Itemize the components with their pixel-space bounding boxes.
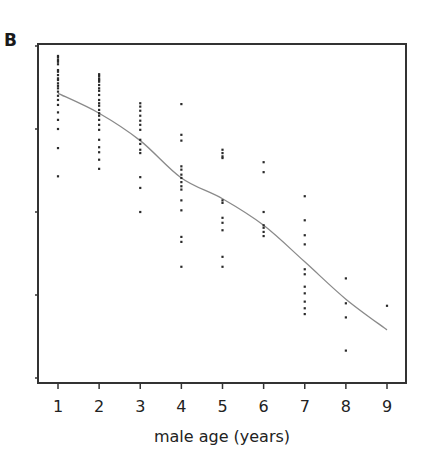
- data-point: [57, 147, 59, 149]
- data-point: [98, 159, 100, 161]
- x-tick-label: 6: [259, 397, 269, 416]
- data-point: [57, 128, 59, 130]
- data-point: [304, 286, 306, 288]
- data-point: [180, 165, 182, 167]
- x-tick-label: 4: [176, 397, 186, 416]
- data-point: [98, 99, 100, 101]
- data-point: [98, 119, 100, 121]
- data-point: [304, 268, 306, 270]
- data-point: [139, 139, 141, 141]
- scatter-chart: 123456789 male age (years): [0, 0, 436, 468]
- data-point: [221, 256, 223, 258]
- data-point: [304, 219, 306, 221]
- data-point: [304, 307, 306, 309]
- smoothed-trend-line: [58, 93, 387, 330]
- data-point: [304, 313, 306, 315]
- data-point: [98, 115, 100, 117]
- data-point: [139, 143, 141, 145]
- data-point: [57, 61, 59, 63]
- data-point: [98, 102, 100, 104]
- data-point: [221, 202, 223, 204]
- data-point: [180, 169, 182, 171]
- data-point: [98, 151, 100, 153]
- data-point: [57, 71, 59, 73]
- data-point: [57, 95, 59, 97]
- data-point: [139, 129, 141, 131]
- x-tick-label: 5: [217, 397, 227, 416]
- data-point: [180, 209, 182, 211]
- data-point: [304, 292, 306, 294]
- data-point: [98, 81, 100, 83]
- data-point: [139, 124, 141, 126]
- data-point: [263, 171, 265, 173]
- data-point: [180, 181, 182, 183]
- data-point: [57, 79, 59, 81]
- data-point: [304, 243, 306, 245]
- data-point: [263, 231, 265, 233]
- data-point: [180, 174, 182, 176]
- data-point: [98, 109, 100, 111]
- data-point: [139, 176, 141, 178]
- data-point: [139, 187, 141, 189]
- data-point: [57, 82, 59, 84]
- data-point: [263, 235, 265, 237]
- data-point: [304, 301, 306, 303]
- data-points: [57, 55, 388, 352]
- data-point: [221, 149, 223, 151]
- data-point: [221, 152, 223, 154]
- data-point: [386, 305, 388, 307]
- data-point: [139, 115, 141, 117]
- x-axis-ticks: 123456789: [53, 383, 392, 416]
- trend-line: [58, 93, 387, 330]
- data-point: [139, 110, 141, 112]
- data-point: [57, 85, 59, 87]
- data-point: [221, 217, 223, 219]
- data-point: [180, 199, 182, 201]
- data-point: [180, 134, 182, 136]
- x-tick-label: 3: [135, 397, 145, 416]
- data-point: [57, 119, 59, 121]
- data-point: [139, 152, 141, 154]
- data-point: [180, 103, 182, 105]
- data-point: [98, 129, 100, 131]
- data-point: [57, 63, 59, 65]
- data-point: [304, 234, 306, 236]
- data-point: [98, 168, 100, 170]
- data-point: [57, 104, 59, 106]
- data-point: [345, 350, 347, 352]
- x-tick-label: 8: [341, 397, 351, 416]
- data-point: [221, 229, 223, 231]
- data-point: [180, 140, 182, 142]
- data-point: [139, 120, 141, 122]
- data-point: [263, 161, 265, 163]
- x-tick-label: 1: [53, 397, 63, 416]
- x-axis-title: male age (years): [154, 427, 290, 446]
- data-point: [57, 87, 59, 89]
- data-point: [57, 74, 59, 76]
- data-point: [263, 211, 265, 213]
- data-point: [98, 84, 100, 86]
- data-point: [57, 57, 59, 59]
- data-point: [57, 99, 59, 101]
- data-point: [263, 227, 265, 229]
- data-point: [139, 149, 141, 151]
- data-point: [98, 105, 100, 107]
- data-point: [221, 157, 223, 159]
- data-point: [180, 188, 182, 190]
- data-point: [139, 105, 141, 107]
- data-point: [180, 177, 182, 179]
- data-point: [98, 139, 100, 141]
- data-point: [98, 94, 100, 96]
- x-tick-label: 2: [94, 397, 104, 416]
- data-point: [98, 124, 100, 126]
- data-point: [263, 224, 265, 226]
- data-point: [345, 316, 347, 318]
- x-tick-label: 7: [300, 397, 310, 416]
- x-tick-label: 9: [382, 397, 392, 416]
- data-point: [221, 266, 223, 268]
- data-point: [98, 87, 100, 89]
- data-point: [345, 277, 347, 279]
- plot-border: [38, 44, 406, 383]
- data-point: [180, 241, 182, 243]
- data-point: [57, 91, 59, 93]
